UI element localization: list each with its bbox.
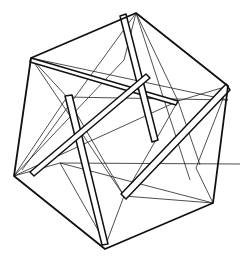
tendon-lines (14, 13, 240, 244)
wireframe-drawing (0, 0, 240, 264)
strut-bars (30, 14, 230, 245)
tensegrity-figure (0, 0, 240, 264)
outer-hexagon (14, 13, 228, 249)
